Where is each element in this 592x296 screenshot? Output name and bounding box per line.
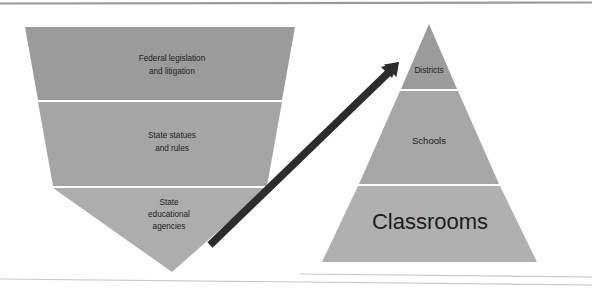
funnel-label-federal-line1: Federal legislation xyxy=(139,54,206,63)
funnel-label-agencies-line1: State xyxy=(159,198,179,207)
funnel-label-agencies-line3: agencies xyxy=(153,222,186,231)
pyramid-label-districts: Districts xyxy=(414,66,443,75)
funnel-label-statutes-line2: and rules xyxy=(155,144,189,153)
funnel-tier-federal xyxy=(25,27,295,100)
funnel-label-statutes-line1: State statues xyxy=(148,131,196,140)
page-rule-top xyxy=(0,3,592,4)
funnel-label-agencies-line2: educational xyxy=(148,210,190,219)
pyramid-label-classrooms: Classrooms xyxy=(372,209,488,234)
pyramid-tier-districts xyxy=(401,24,457,89)
page-rule-bottom-right xyxy=(300,274,592,277)
funnel-label-federal-line2: and litigation xyxy=(149,67,195,76)
pyramid-label-schools: Schools xyxy=(412,135,446,146)
funnel-group: Federal legislation and litigation State… xyxy=(25,27,295,272)
diagram-canvas: Federal legislation and litigation State… xyxy=(0,0,592,296)
figure-page: Federal legislation and litigation State… xyxy=(0,0,592,296)
page-rule-bottom xyxy=(0,279,592,285)
pyramid-group: Districts Schools Classrooms xyxy=(322,24,537,262)
